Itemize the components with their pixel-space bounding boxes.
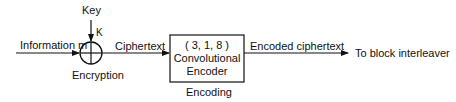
input-label: Information m [20, 39, 87, 51]
key-label: Key [82, 4, 101, 16]
encryption-label: Encryption [72, 69, 124, 81]
encoder-line2: Encoder [187, 65, 228, 78]
ciphertext-label: Ciphertext [115, 40, 165, 52]
encoder-params: ( 3, 1, 8 ) [185, 39, 229, 52]
output-label: To block interleaver [355, 47, 450, 59]
encoding-caption: Encoding [186, 86, 232, 98]
encoder-text: ( 3, 1, 8 ) Convolutional Encoder [170, 35, 244, 82]
encoded-ciphertext-label: Encoded ciphertext [250, 40, 344, 52]
encoder-line1: Convolutional [174, 52, 241, 65]
key-symbol-label: K [96, 27, 103, 39]
